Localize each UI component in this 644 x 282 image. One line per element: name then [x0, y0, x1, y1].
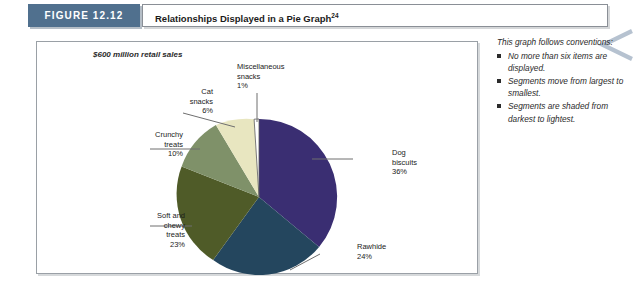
pie-label-dog-biscuits-line2: biscuits: [392, 158, 417, 167]
pie-label-miscellaneous-snacks-line1: Miscellaneous: [237, 62, 285, 71]
pie-label-soft-and-chewy-treats-line2: chewy: [164, 221, 185, 230]
pie-label-soft-and-chewy-treats-line3: treats: [166, 230, 185, 239]
pie-label-rawhide-pct: 24%: [357, 252, 386, 262]
pie-label-dog-biscuits: Dog biscuits 36%: [392, 148, 417, 177]
figure-title: Relationships Displayed in a Pie Graph24: [155, 5, 603, 26]
conventions-note: This graph follows conventions: No more …: [497, 36, 629, 125]
conventions-intro: This graph follows conventions:: [497, 36, 629, 49]
figure-number-box: FIGURE 12.12: [28, 4, 140, 27]
pie-label-cat-snacks-pct: 6%: [165, 106, 213, 116]
conventions-item: Segments are shaded from darkest to ligh…: [497, 100, 629, 125]
pie-label-cat-snacks-line2: snacks: [190, 97, 213, 106]
pie-label-cat-snacks-line1: Cat: [201, 87, 213, 96]
pie-label-dog-biscuits-line1: Dog: [392, 148, 406, 157]
pie-label-crunchy-treats: Crunchy treats 10%: [125, 130, 183, 159]
pie-label-soft-and-chewy-treats-line1: Soft and: [157, 211, 185, 220]
pie-label-rawhide: Rawhide 24%: [357, 242, 386, 261]
conventions-list: No more than six items are displayed. Se…: [497, 50, 629, 126]
pie-label-miscellaneous-snacks-pct: 1%: [237, 81, 285, 91]
pie-label-crunchy-treats-pct: 10%: [125, 149, 183, 159]
pie-label-soft-and-chewy-treats-pct: 23%: [127, 240, 185, 250]
pie-label-soft-and-chewy-treats: Soft and chewy treats 23%: [127, 211, 185, 249]
pie-label-miscellaneous-snacks-line2: snacks: [237, 72, 260, 81]
conventions-item: No more than six items are displayed.: [497, 50, 629, 75]
pie-label-rawhide-line1: Rawhide: [357, 242, 386, 251]
pie-label-crunchy-treats-line1: Crunchy: [155, 130, 183, 139]
figure-title-footnote-marker: 24: [331, 12, 338, 19]
conventions-item: Segments move from largest to smallest.: [497, 75, 629, 100]
figure-title-text: Relationships Displayed in a Pie Graph: [155, 13, 331, 24]
figure-header: FIGURE 12.12 Relationships Displayed in …: [28, 4, 608, 27]
pie-label-cat-snacks: Cat snacks 6%: [165, 87, 213, 116]
chart-frame: $600 million retail sales Dog biscuits 3…: [36, 41, 478, 274]
pie-label-crunchy-treats-line2: treats: [164, 140, 183, 149]
pie-label-dog-biscuits-pct: 36%: [392, 167, 417, 177]
figure-title-box: Relationships Displayed in a Pie Graph24: [142, 4, 608, 27]
pie-label-miscellaneous-snacks: Miscellaneous snacks 1%: [237, 62, 285, 91]
figure-number-label: FIGURE 12.12: [28, 4, 140, 27]
